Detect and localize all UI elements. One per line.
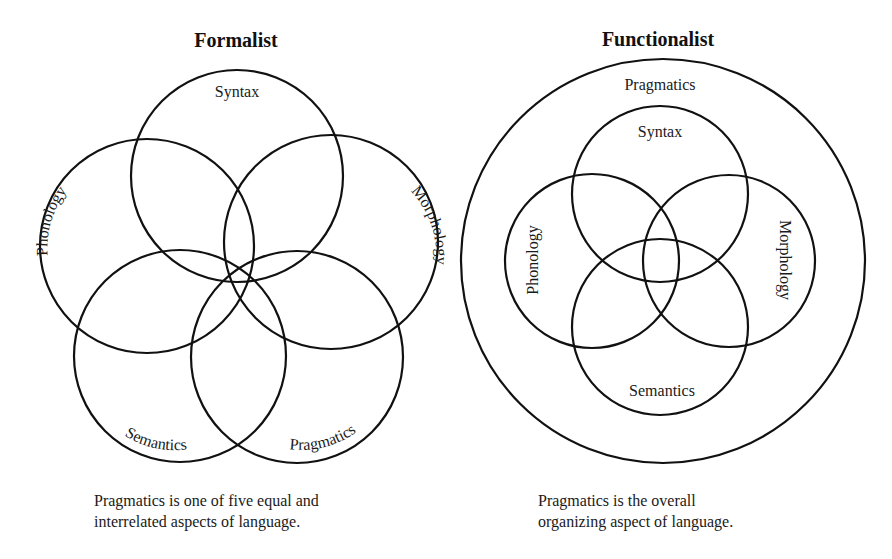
formalist-caption-line-1: Pragmatics is one of five equal and bbox=[94, 490, 319, 511]
functionalist-syntax-label: Syntax bbox=[638, 123, 682, 141]
functionalist-diagram: Functionalist Pragmatics Syntax Phonolog… bbox=[461, 28, 865, 463]
functionalist-pragmatics-label: Pragmatics bbox=[624, 76, 695, 94]
formalist-syntax-circle bbox=[131, 70, 343, 282]
formalist-diagram: Formalist Syntax Phonology Morphology Se… bbox=[33, 29, 450, 463]
functionalist-caption-line-2: organizing aspect of language. bbox=[538, 511, 733, 532]
formalist-title: Formalist bbox=[194, 29, 278, 51]
formalist-morphology-circle bbox=[224, 135, 438, 349]
formalist-pragmatics-circle bbox=[191, 251, 403, 463]
formalist-caption: Pragmatics is one of five equal and inte… bbox=[94, 490, 319, 532]
formalist-phonology-circle bbox=[40, 139, 254, 353]
formalist-syntax-label: Syntax bbox=[215, 83, 259, 101]
formalist-caption-line-2: interrelated aspects of language. bbox=[94, 511, 319, 532]
formalist-semantics-circle bbox=[74, 250, 286, 462]
diagram-canvas: Formalist Syntax Phonology Morphology Se… bbox=[0, 0, 892, 559]
functionalist-title: Functionalist bbox=[602, 28, 715, 50]
functionalist-pragmatics-outer-circle bbox=[461, 59, 865, 463]
formalist-phonology-label: Phonology bbox=[33, 183, 70, 257]
functionalist-semantics-label: Semantics bbox=[629, 382, 695, 399]
functionalist-morphology-label: Morphology bbox=[776, 220, 794, 300]
formalist-semantics-label: Semantics bbox=[123, 423, 188, 453]
functionalist-caption-line-1: Pragmatics is the overall bbox=[538, 490, 733, 511]
formalist-morphology-label: Morphology bbox=[408, 182, 450, 265]
functionalist-phonology-label: Phonology bbox=[524, 225, 542, 294]
functionalist-caption: Pragmatics is the overall organizing asp… bbox=[538, 490, 733, 532]
formalist-pragmatics-label: Pragmatics bbox=[289, 420, 358, 453]
